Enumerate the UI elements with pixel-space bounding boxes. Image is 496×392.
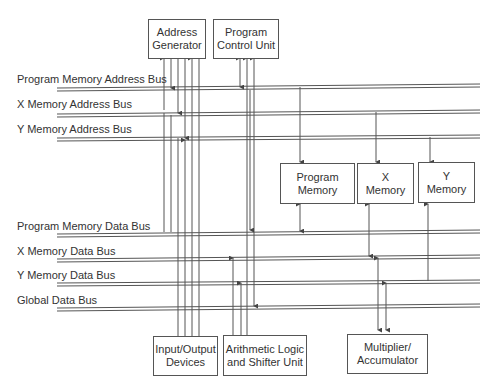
global-data-bus-line bbox=[57, 304, 480, 311]
bus-label-y-memory-data: Y Memory Data Bus bbox=[17, 269, 115, 281]
y-memory-address-bus-line bbox=[57, 135, 480, 141]
bus-label-program-memory-address: Program Memory Address Bus bbox=[17, 73, 167, 85]
bus-label-program-memory-data: Program Memory Data Bus bbox=[17, 220, 150, 232]
program-memory-block: ProgramMemory bbox=[280, 163, 355, 204]
multiplier-accumulator-block: Multiplier/Accumulator bbox=[347, 334, 428, 374]
program-control-unit-block: ProgramControl Unit bbox=[213, 19, 279, 59]
program-memory-address-bus-line bbox=[57, 84, 480, 91]
x-memory-block: XMemory bbox=[357, 163, 414, 204]
bus-label-x-memory-address: X Memory Address Bus bbox=[17, 98, 132, 110]
bus-label-y-memory-address: Y Memory Address Bus bbox=[17, 123, 132, 135]
y-memory-data-bus-line bbox=[57, 280, 480, 286]
address-generator-block: AddressGenerator bbox=[148, 19, 206, 59]
alu-shifter-block: Arithmetic Logicand Shifter Unit bbox=[223, 335, 307, 376]
y-memory-block: YMemory bbox=[418, 162, 475, 203]
x-memory-data-bus-line bbox=[57, 255, 480, 262]
bus-label-x-memory-data: X Memory Data Bus bbox=[17, 245, 115, 257]
x-memory-address-bus-line bbox=[57, 110, 480, 117]
input-output-devices-block: Input/OutputDevices bbox=[153, 336, 218, 376]
bus-label-global-data: Global Data Bus bbox=[17, 294, 97, 306]
